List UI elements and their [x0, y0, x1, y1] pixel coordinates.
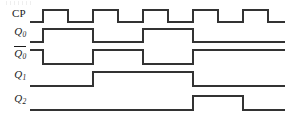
waveform-canvas [0, 0, 296, 127]
waveform-q0 [30, 29, 285, 42]
waveform-q0bar [30, 50, 285, 64]
timing-diagram: CPQ0Q0Q1Q2 [0, 0, 296, 127]
waveform-cp [30, 10, 285, 22]
waveform-traces [30, 10, 285, 110]
waveform-q2 [30, 96, 285, 110]
waveform-q1 [30, 72, 285, 86]
